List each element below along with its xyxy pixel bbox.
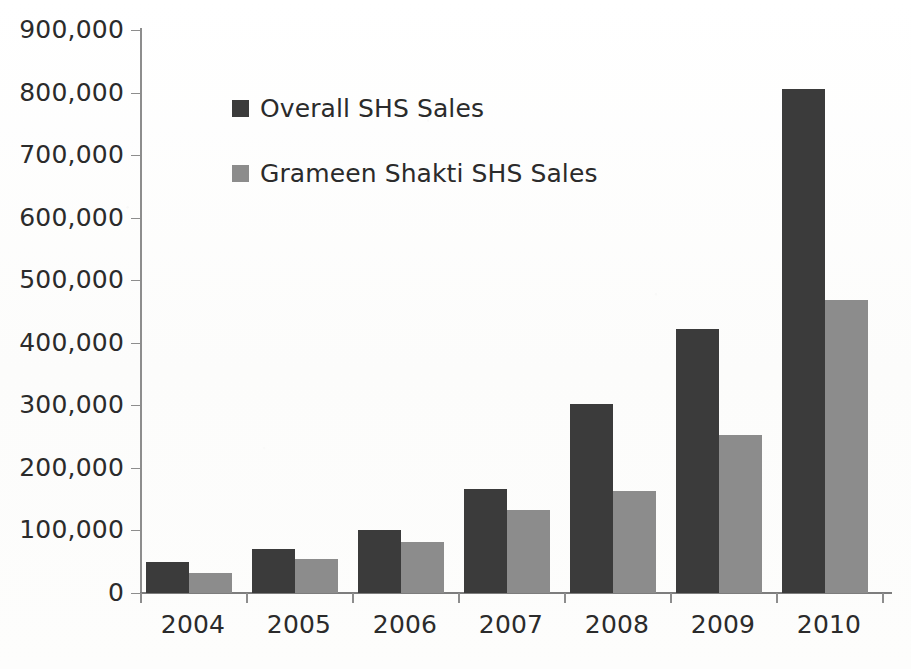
x-axis-tick [140, 593, 142, 603]
y-axis-tick [131, 155, 140, 156]
x-axis-tick [352, 593, 354, 603]
bar-2007-series-0 [464, 489, 507, 593]
y-axis-tick [131, 593, 140, 594]
bar-2005-series-1 [295, 559, 338, 593]
y-axis-tick-label: 400,000 [4, 330, 124, 355]
bar-2006-series-1 [401, 542, 444, 593]
bar-2004-series-1 [189, 573, 232, 593]
legend-item-overall-shs-sales: Overall SHS Sales [232, 95, 598, 122]
y-axis-tick [131, 280, 140, 281]
x-axis-tick [458, 593, 460, 603]
y-axis-tick [131, 468, 140, 469]
y-axis-tick [131, 405, 140, 406]
x-axis-label-2010: 2010 [776, 610, 882, 640]
legend-swatch-dark-icon [232, 100, 249, 117]
x-axis-label-2004: 2004 [140, 610, 246, 640]
x-axis-label-2007: 2007 [458, 610, 564, 640]
y-axis-tick-label: 100,000 [4, 517, 124, 542]
x-axis-label-2009: 2009 [670, 610, 776, 640]
legend-label-grameen-shakti-shs-sales: Grameen Shakti SHS Sales [260, 160, 598, 187]
y-axis-tick [131, 30, 140, 31]
legend-item-grameen-shakti-shs-sales: Grameen Shakti SHS Sales [232, 160, 598, 187]
legend-swatch-gray-icon [232, 165, 249, 182]
x-axis-label-2008: 2008 [564, 610, 670, 640]
x-axis-label-2005: 2005 [246, 610, 352, 640]
bar-2009-series-0 [676, 329, 719, 593]
y-axis-tick-label: 600,000 [4, 205, 124, 230]
bar-2005-series-0 [252, 549, 295, 593]
x-axis-tick [670, 593, 672, 603]
y-axis-tick-label: 500,000 [4, 267, 124, 292]
y-axis-tick [131, 218, 140, 219]
y-axis-tick-label: 200,000 [4, 455, 124, 480]
bar-2007-series-1 [507, 510, 550, 593]
x-axis-tick [882, 593, 884, 603]
y-axis-tick-label: 900,000 [4, 17, 124, 42]
bar-2010-series-1 [825, 300, 868, 593]
x-axis-tick [246, 593, 248, 603]
bar-2010-series-0 [782, 89, 825, 593]
y-axis-tick-label: 0 [4, 580, 124, 605]
x-axis-tick [564, 593, 566, 603]
y-axis-tick [131, 530, 140, 531]
y-axis-tick-label: 700,000 [4, 142, 124, 167]
y-axis-tick-label: 300,000 [4, 392, 124, 417]
y-axis-tick-label: 800,000 [4, 80, 124, 105]
y-axis-tick [131, 93, 140, 94]
bar-2008-series-0 [570, 404, 613, 593]
legend-label-overall-shs-sales: Overall SHS Sales [260, 95, 484, 122]
x-axis-label-2006: 2006 [352, 610, 458, 640]
bar-2009-series-1 [719, 435, 762, 593]
bar-2008-series-1 [613, 491, 656, 593]
bar-chart: 0100,000200,000300,000400,000500,000600,… [0, 0, 911, 669]
bar-2004-series-0 [146, 562, 189, 593]
bar-2006-series-0 [358, 530, 401, 593]
chart-legend: Overall SHS Sales Grameen Shakti SHS Sal… [232, 95, 598, 225]
y-axis-tick [131, 343, 140, 344]
x-axis-tick [776, 593, 778, 603]
